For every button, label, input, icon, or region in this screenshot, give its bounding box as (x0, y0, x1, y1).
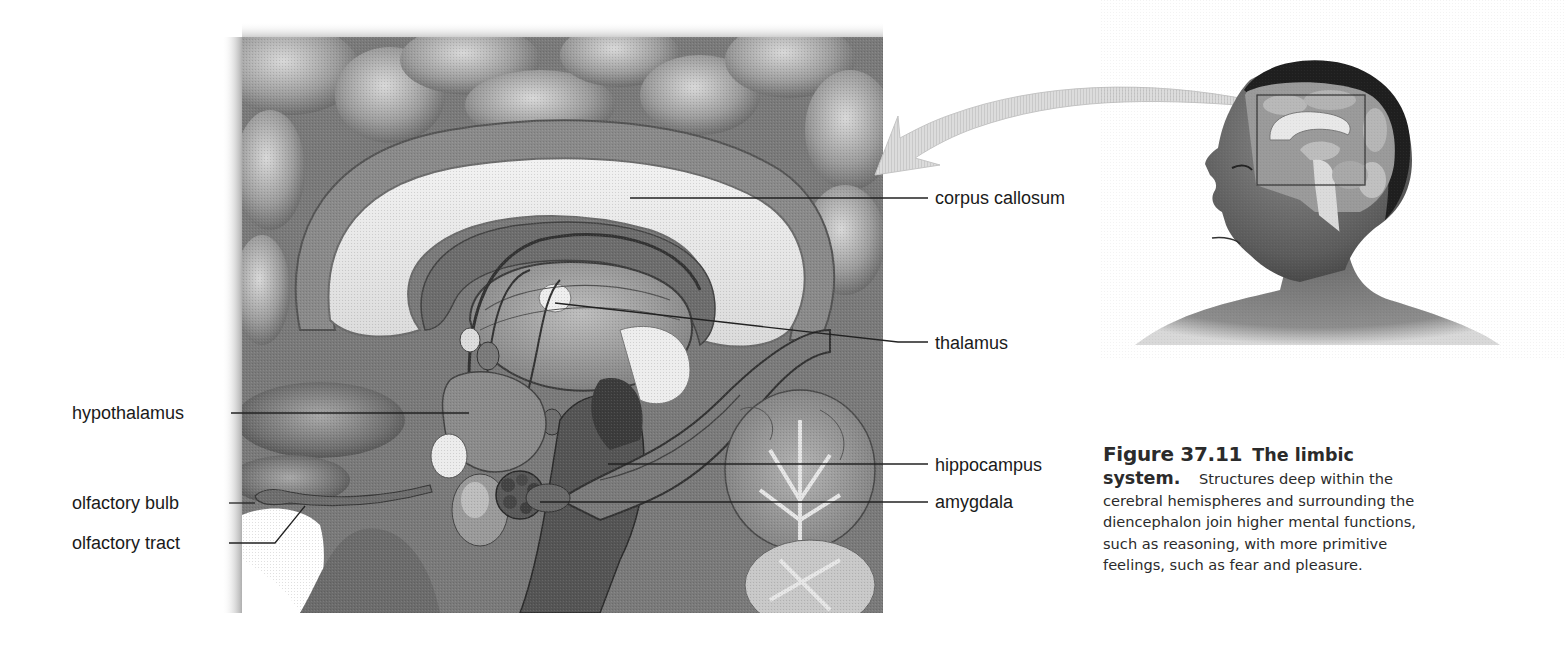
figure-caption: Figure 37.11 The limbic system. Structur… (1103, 442, 1523, 576)
label-amygdala: amygdala (935, 492, 1013, 512)
figure-title: The limbic (1252, 445, 1354, 465)
brain-illustration (220, 22, 895, 630)
caption-line: Structures deep within the (1199, 470, 1393, 487)
caption-line: cerebral hemispheres and surrounding the (1103, 490, 1523, 512)
caption-line: feelings, such as fear and pleasure. (1103, 554, 1523, 576)
figure-number: Figure 37.11 (1103, 442, 1242, 466)
figure-title-continued: system. (1103, 468, 1180, 488)
caption-line: diencephalon join higher mental function… (1103, 511, 1523, 533)
label-hypothalamus: hypothalamus (72, 403, 184, 423)
label-olfactory-bulb: olfactory bulb (72, 493, 179, 513)
label-hippocampus: hippocampus (935, 455, 1042, 475)
label-corpus-callosum: corpus callosum (935, 188, 1065, 208)
head-inset-illustration (1100, 0, 1566, 360)
label-thalamus: thalamus (935, 333, 1008, 353)
caption-line: such as reasoning, with more primitive (1103, 533, 1523, 555)
label-olfactory-tract: olfactory tract (72, 533, 180, 553)
